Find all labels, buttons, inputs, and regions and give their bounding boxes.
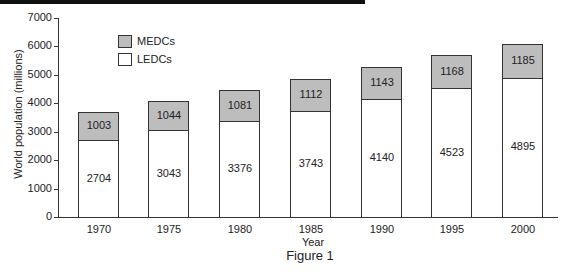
y-tick bbox=[54, 103, 58, 104]
y-tick bbox=[54, 46, 58, 47]
x-tick-label: 1975 bbox=[149, 223, 189, 235]
y-tick bbox=[54, 160, 58, 161]
legend-label-medc: MEDCs bbox=[137, 35, 175, 47]
y-tick bbox=[54, 18, 58, 19]
y-tick-label: 4000 bbox=[16, 96, 52, 108]
value-label-medc: 1044 bbox=[149, 109, 189, 121]
x-tick-label: 2000 bbox=[503, 223, 543, 235]
y-tick bbox=[54, 75, 58, 76]
x-tick-label: 1985 bbox=[291, 223, 331, 235]
value-label-ledc: 3043 bbox=[149, 167, 189, 179]
x-tick-label: 1995 bbox=[432, 223, 472, 235]
x-tick-label: 1980 bbox=[220, 223, 260, 235]
y-tick-label: 0 bbox=[16, 210, 52, 222]
value-label-ledc: 4140 bbox=[362, 151, 402, 163]
value-label-medc: 1003 bbox=[79, 119, 119, 131]
y-axis bbox=[58, 18, 59, 218]
x-tick-label: 1990 bbox=[362, 223, 402, 235]
value-label-ledc: 4523 bbox=[432, 146, 472, 158]
y-tick-label: 3000 bbox=[16, 125, 52, 137]
figure-caption: Figure 1 bbox=[270, 248, 350, 263]
y-tick-label: 7000 bbox=[16, 11, 52, 23]
value-label-ledc: 3376 bbox=[220, 162, 260, 174]
y-tick bbox=[54, 189, 58, 190]
legend-swatch-ledc bbox=[118, 53, 132, 66]
top-border-bar bbox=[0, 0, 365, 4]
value-label-medc: 1168 bbox=[432, 65, 472, 77]
y-tick bbox=[54, 132, 58, 133]
value-label-medc: 1081 bbox=[220, 99, 260, 111]
y-tick-label: 6000 bbox=[16, 39, 52, 51]
legend-swatch-medc bbox=[118, 35, 132, 48]
y-tick bbox=[54, 217, 58, 218]
x-axis-title: Year bbox=[288, 236, 338, 248]
x-tick-label: 1970 bbox=[79, 223, 119, 235]
y-tick-label: 5000 bbox=[16, 68, 52, 80]
value-label-medc: 1143 bbox=[362, 76, 402, 88]
value-label-ledc: 2704 bbox=[79, 172, 119, 184]
y-tick-label: 2000 bbox=[16, 153, 52, 165]
value-label-medc: 1185 bbox=[503, 54, 543, 66]
value-label-ledc: 3743 bbox=[291, 157, 331, 169]
y-tick-label: 1000 bbox=[16, 182, 52, 194]
value-label-medc: 1112 bbox=[291, 88, 331, 100]
legend-label-ledc: LEDCs bbox=[137, 53, 172, 65]
value-label-ledc: 4895 bbox=[503, 140, 543, 152]
